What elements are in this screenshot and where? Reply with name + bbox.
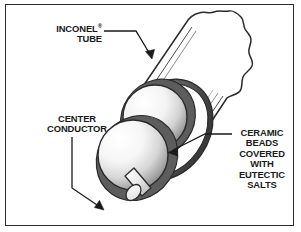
registered-trademark-icon: ®	[98, 23, 102, 29]
leader-inconel	[104, 31, 155, 59]
leader-inconel-arrowhead	[146, 50, 155, 60]
label-center-conductor-line2: CONDUCTOR	[25, 124, 129, 134]
leader-center-conductor-arrowhead	[95, 201, 105, 211]
leader-inconel-line	[104, 31, 151, 56]
label-ceramic-line6: SALTS	[228, 180, 296, 190]
label-center-conductor: CENTER CONDUCTOR	[25, 114, 129, 135]
label-inconel-word: INCONEL	[56, 23, 98, 34]
leader-center-conductor-line	[72, 137, 100, 207]
label-ceramic-beads: CERAMIC BEADS COVERED WITH EUTECTIC SALT…	[228, 128, 296, 190]
label-inconel-line2: TUBE	[36, 34, 102, 44]
label-inconel-tube: INCONEL® TUBE	[36, 24, 102, 45]
figure-root: INCONEL® TUBE CENTER CONDUCTOR CERAMIC B…	[0, 0, 301, 232]
